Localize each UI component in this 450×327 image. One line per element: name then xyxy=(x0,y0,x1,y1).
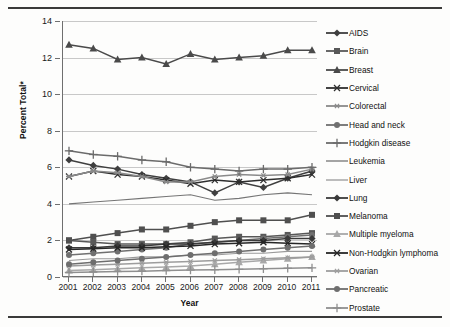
legend-label: Colorectal xyxy=(349,101,386,111)
legend-swatch-triangle-icon xyxy=(325,227,349,241)
data-point-marker-square xyxy=(139,226,145,232)
legend-label: Hodgkin disease xyxy=(349,138,410,148)
x-axis-tick-label: 2003 xyxy=(107,282,126,292)
data-point-marker-triangle xyxy=(65,41,73,48)
data-point-marker-square xyxy=(260,217,266,223)
legend-label: Liver xyxy=(349,175,367,185)
chart-legend: AIDSBrainBreastCervicalColorectalHead an… xyxy=(325,24,447,317)
y-axis-tick-label: 14 xyxy=(42,16,52,26)
legend-swatch-none-icon xyxy=(325,173,349,187)
legend-item-ovarian[interactable]: Ovarian xyxy=(325,262,447,280)
legend-swatch-asterisk-icon xyxy=(325,264,349,278)
legend-label: Pancreatic xyxy=(349,284,388,294)
legend-swatch-square-icon xyxy=(325,44,349,58)
data-point-marker-triangle xyxy=(187,50,195,57)
data-point-marker-plus xyxy=(259,165,267,173)
data-point-marker-asterisk xyxy=(260,173,266,177)
legend-item-hodgkin-disease[interactable]: Hodgkin disease xyxy=(325,134,447,152)
data-point-marker-plus xyxy=(235,167,243,175)
data-point-marker-circle xyxy=(163,254,169,260)
x-axis-tick-label: 2002 xyxy=(83,282,102,292)
y-axis-ticks: 02468101214 xyxy=(0,21,60,277)
data-point-marker-diamond xyxy=(333,30,340,37)
data-point-marker-square xyxy=(309,212,315,218)
y-axis-tick-mark xyxy=(55,131,60,132)
x-axis-tick-label: 2001 xyxy=(59,282,78,292)
data-point-marker-plus xyxy=(113,152,121,160)
data-point-marker-square xyxy=(334,213,340,219)
data-point-marker-plus xyxy=(284,264,292,272)
y-axis-tick-mark xyxy=(55,94,60,95)
x-axis-tick-labels: 2001200220032004200520062007200820092010… xyxy=(56,282,324,296)
legend-item-colorectal[interactable]: Colorectal xyxy=(325,97,447,115)
series-lines xyxy=(63,21,318,277)
data-point-marker-diamond xyxy=(65,156,72,163)
legend-item-lung[interactable]: Lung xyxy=(325,189,447,207)
legend-label: Melanoma xyxy=(349,211,388,221)
legend-swatch-none-icon xyxy=(325,154,349,168)
legend-label: Cervical xyxy=(349,83,379,93)
legend-label: Breast xyxy=(349,65,373,75)
legend-item-multiple-myeloma[interactable]: Multiple myeloma xyxy=(325,225,447,243)
x-axis-tick-label: 2010 xyxy=(277,282,296,292)
y-axis-tick-mark xyxy=(55,167,60,168)
y-axis-tick-label: 12 xyxy=(42,53,52,63)
data-point-marker-square xyxy=(334,48,340,54)
legend-item-prostate[interactable]: Prostate xyxy=(325,298,447,316)
legend-item-liver[interactable]: Liver xyxy=(325,170,447,188)
series-line xyxy=(69,193,312,204)
data-point-marker-circle xyxy=(309,243,315,249)
data-point-marker-plus xyxy=(65,268,73,276)
y-axis-tick-label: 8 xyxy=(47,126,52,136)
legend-item-breast[interactable]: Breast xyxy=(325,61,447,79)
legend-item-cervical[interactable]: Cervical xyxy=(325,79,447,97)
legend-swatch-asterisk-icon xyxy=(325,99,349,113)
legend-item-pancreatic[interactable]: Pancreatic xyxy=(325,280,447,298)
data-point-marker-diamond xyxy=(333,194,340,201)
legend-item-melanoma[interactable]: Melanoma xyxy=(325,207,447,225)
data-point-marker-plus xyxy=(333,139,341,147)
legend-label: AIDS xyxy=(349,28,368,38)
legend-swatch-diamond-icon xyxy=(325,191,349,205)
data-point-marker-plus xyxy=(186,266,194,274)
top-divider-rule xyxy=(8,7,442,9)
legend-swatch-plus-icon xyxy=(325,301,349,315)
legend-item-non-hodgkin-lymphoma[interactable]: Non-Hodgkin lymphoma xyxy=(325,244,447,262)
data-point-marker-square xyxy=(236,217,242,223)
data-point-marker-square xyxy=(285,217,291,223)
series-leukemia xyxy=(69,193,312,204)
legend-swatch-cross-icon xyxy=(325,81,349,95)
data-point-marker-square xyxy=(66,237,72,243)
data-point-marker-plus xyxy=(211,165,219,173)
y-axis-tick-label: 10 xyxy=(42,89,52,99)
data-point-marker-circle xyxy=(236,248,242,254)
data-point-marker-circle xyxy=(188,252,194,258)
data-point-marker-circle xyxy=(139,256,145,262)
legend-item-aids[interactable]: AIDS xyxy=(325,24,447,42)
data-point-marker-plus xyxy=(89,150,97,158)
legend-swatch-cross-icon xyxy=(325,246,349,260)
legend-swatch-circle-icon xyxy=(325,282,349,296)
y-axis-tick-label: 0 xyxy=(47,272,52,282)
legend-item-head-and-neck[interactable]: Head and neck xyxy=(325,115,447,133)
chart-figure: 02468101214 Percent Total* 2001200220032… xyxy=(0,0,450,327)
legend-item-brain[interactable]: Brain xyxy=(325,42,447,60)
data-point-marker-square xyxy=(115,230,121,236)
legend-label: Multiple myeloma xyxy=(349,229,414,239)
y-axis-tick-mark xyxy=(55,204,60,205)
data-point-marker-asterisk xyxy=(66,174,72,178)
x-axis-tick-label: 2004 xyxy=(131,282,150,292)
data-point-marker-square xyxy=(163,226,169,232)
data-point-marker-plus xyxy=(65,147,73,155)
legend-item-leukemia[interactable]: Leukemia xyxy=(325,152,447,170)
data-point-marker-circle xyxy=(90,259,96,265)
data-point-marker-plus xyxy=(186,163,194,171)
plot-area xyxy=(62,21,317,277)
y-axis-tick-mark xyxy=(55,277,60,278)
legend-swatch-triangle-icon xyxy=(325,63,349,77)
data-point-marker-plus xyxy=(284,165,292,173)
data-point-marker-circle xyxy=(66,252,72,258)
legend-swatch-square-icon xyxy=(325,209,349,223)
series-aids xyxy=(65,156,315,196)
data-point-marker-circle xyxy=(285,245,291,251)
